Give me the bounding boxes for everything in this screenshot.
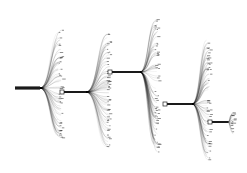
leaf-label-mark — [59, 45, 62, 46]
leaf-label-mark — [109, 100, 111, 101]
leaf-label-mark — [210, 69, 212, 70]
leaf-label-mark — [107, 89, 110, 90]
leaf-label-mark — [155, 28, 156, 29]
leaf-label-mark — [107, 122, 109, 123]
leaf-label-mark — [207, 108, 209, 109]
leaf-label-mark — [158, 68, 160, 69]
leaf-label-mark — [60, 88, 64, 89]
leaf-label-mark — [107, 49, 108, 50]
leaf-label-mark — [210, 50, 213, 51]
leaf-label-mark — [210, 114, 213, 115]
leaf-label-mark — [209, 129, 212, 130]
leaf-label-mark — [61, 130, 63, 131]
leaf-label-mark — [209, 116, 212, 117]
leaf-label-mark — [62, 87, 64, 88]
leaf-label-mark — [207, 55, 210, 56]
leaf-label-mark — [109, 125, 110, 126]
leaf-label-mark — [232, 121, 233, 122]
leaf-label-mark — [210, 110, 213, 111]
leaf-label-mark — [155, 65, 158, 66]
tree-edge — [140, 21, 155, 72]
leaf-label-mark — [157, 116, 158, 117]
leaf-label-mark — [60, 61, 62, 62]
leaf-label-mark — [158, 64, 161, 65]
leaf-label-mark — [156, 107, 159, 108]
edge-layer — [40, 20, 234, 160]
leaf-label-mark — [207, 59, 210, 60]
leaf-label-mark — [109, 52, 110, 53]
leaf-label-mark — [107, 146, 110, 147]
leaf-label-mark — [107, 110, 110, 111]
leaf-label-mark — [62, 79, 65, 80]
leaf-label-mark — [155, 116, 157, 117]
tree-node-level3 — [163, 102, 167, 106]
leaf-label-mark — [210, 151, 212, 152]
leaf-label-mark — [61, 76, 63, 77]
leaf-label-mark — [59, 135, 62, 136]
leaf-label-mark — [209, 103, 211, 104]
leaf-label-mark — [107, 120, 109, 121]
leaf-label-mark — [208, 52, 211, 53]
leaf-label-mark — [107, 135, 109, 136]
leaf-label-mark — [60, 102, 61, 103]
leaf-label-mark — [108, 86, 110, 87]
leaf-label-mark — [209, 131, 212, 132]
leaf-label-mark — [156, 120, 159, 121]
leaf-label-mark — [155, 25, 157, 26]
leaf-label-mark — [109, 84, 111, 85]
leaf-label-mark — [207, 63, 210, 64]
leaf-label-mark — [107, 130, 110, 131]
tree-diagram-canvas — [0, 0, 247, 173]
leaf-label-mark — [59, 44, 61, 45]
leaf-label-mark — [155, 49, 157, 50]
leaf-label-mark — [207, 58, 210, 59]
leaf-label-mark — [158, 110, 161, 111]
leaf-label-mark — [109, 113, 112, 114]
leaf-label-mark — [231, 125, 234, 126]
leaf-label-mark — [107, 80, 111, 81]
leaf-label-mark — [110, 88, 112, 89]
leaf-label-mark — [108, 109, 111, 110]
leaf-label-mark — [157, 29, 158, 30]
leaf-label-mark — [62, 30, 64, 31]
leaf-label-mark — [107, 101, 109, 102]
leaf-label-mark — [233, 112, 236, 113]
leaf-label-mark — [156, 129, 157, 130]
tree-node-level1 — [60, 90, 64, 94]
leaf-label-mark — [108, 81, 111, 82]
leaf-label-mark — [59, 63, 60, 64]
leaf-label-mark — [208, 80, 210, 81]
leaf-label-mark — [60, 122, 62, 123]
leaf-label-mark — [107, 61, 109, 62]
leaf-label-mark — [158, 76, 160, 77]
leaf-label-mark — [157, 52, 160, 53]
leaf-label-mark — [156, 100, 159, 101]
leaf-label-mark — [107, 96, 110, 97]
leaf-label-mark — [157, 44, 158, 45]
leaf-label-mark — [210, 63, 212, 64]
leaf-label-mark — [157, 142, 158, 143]
leaf-label-mark — [59, 98, 62, 99]
leaf-label-mark — [207, 48, 210, 49]
leaf-label-mark — [233, 114, 236, 115]
leaf-label-mark — [156, 21, 158, 22]
leaf-label-mark — [155, 112, 157, 113]
leaf-label-mark — [207, 152, 208, 153]
leaf-label-mark — [60, 133, 62, 134]
leaf-label-mark — [108, 52, 109, 53]
tree-node-level2 — [108, 70, 112, 74]
leaf-label-mark — [207, 135, 209, 136]
leaf-label-mark — [59, 94, 60, 95]
leaf-label-mark — [59, 73, 60, 74]
leaf-label-mark — [234, 123, 236, 124]
leaf-label-mark — [110, 54, 112, 55]
leaf-label-mark — [107, 58, 110, 59]
leaf-label-mark — [210, 74, 212, 75]
leaf-label-mark — [157, 54, 159, 55]
leaf-label-mark — [61, 86, 64, 87]
leaf-label-mark — [155, 27, 158, 28]
leaf-label-mark — [155, 108, 156, 109]
leaf-label-mark — [156, 43, 157, 44]
leaf-label-mark — [157, 78, 160, 79]
leaf-label-mark — [209, 146, 212, 147]
